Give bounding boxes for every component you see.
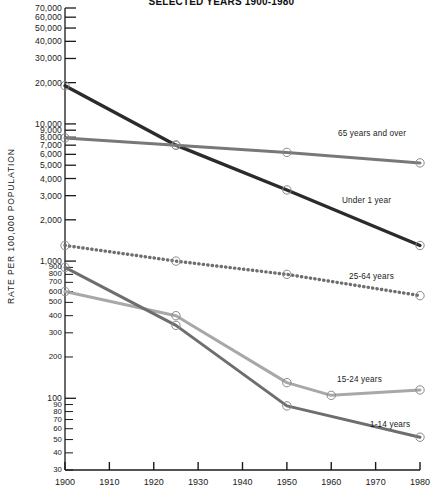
y-tick-label: 700 [49,277,62,286]
y-tick-label: 4,000 [40,174,62,184]
y-tick-label: 60 [53,424,62,433]
x-tick-label: 1970 [354,477,398,487]
y-tick-label: 50 [53,435,62,444]
y-tick-label: 1,000 [40,256,62,266]
series-label: Under 1 year [342,196,391,205]
series-label: 15-24 years [337,375,382,384]
y-axis-ticks [65,8,76,470]
y-tick-label: 10,000 [35,119,62,129]
x-tick-label: 1930 [176,477,220,487]
y-tick-label: 60,000 [35,12,62,22]
y-tick-label: 3,000 [40,191,62,201]
y-tick-label: 500 [49,297,62,306]
series-line [65,245,420,295]
x-tick-label: 1950 [265,477,309,487]
y-tick-label: 20,000 [35,78,62,88]
y-tick-label: 30 [53,465,62,474]
series-label: 1-14 years [370,420,410,429]
axis-lines [65,8,420,470]
y-tick-label: 70 [53,415,62,424]
series-line [65,86,420,246]
y-tick-label: 30,000 [35,53,62,63]
series-line [65,138,420,163]
x-tick-label: 1910 [87,477,131,487]
y-tick-label: 6,000 [40,149,62,159]
y-tick-label: 40 [53,448,62,457]
series-lines [65,86,420,438]
series-line [65,267,420,437]
y-tick-label: 5,000 [40,160,62,170]
y-tick-label: 300 [49,328,62,337]
y-tick-label: 70,000 [35,3,62,13]
y-tick-label: 200 [49,352,62,361]
x-tick-label: 1960 [309,477,353,487]
y-tick-label: 400 [49,311,62,320]
x-tick-label: 1900 [43,477,87,487]
mortality-rate-line-chart: SELECTED YEARS 1900-1980 RATE PER 100,00… [0,0,443,494]
x-tick-label: 1940 [221,477,265,487]
y-tick-label: 2,000 [40,215,62,225]
y-tick-label: 50,000 [35,23,62,33]
y-tick-label: 600 [49,287,62,296]
x-axis-ticks [65,462,420,470]
y-tick-label: 40,000 [35,36,62,46]
series-label: 65 years and over [338,129,406,138]
series-label: 25-64 years [349,272,394,281]
x-tick-label: 1980 [398,477,442,487]
y-tick-label: 100 [47,393,62,403]
x-tick-label: 1920 [132,477,176,487]
